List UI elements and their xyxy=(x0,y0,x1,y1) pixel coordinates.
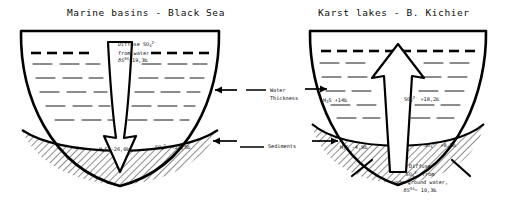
h2s-marine-symbol-tail: S xyxy=(104,146,107,152)
inflow-arrow-water-marine xyxy=(215,87,237,94)
legend-water-line2: Thickness xyxy=(270,94,298,102)
diffuse-marine-line1-prefix: Diffuse SO xyxy=(118,41,149,47)
legend-sediments: Sediments xyxy=(268,143,296,150)
diffuse-karst-line2-tail: from xyxy=(419,171,435,177)
water-ticks-marine-left xyxy=(33,64,114,120)
annotation-so4-sediment-karst: SO42- +8,5‰ xyxy=(424,141,456,151)
h2s-karst-sed-value: -4,9‰ xyxy=(352,144,368,150)
panel-title-karst: Karst lakes - B. Kichier xyxy=(318,7,470,18)
annotation-h2s-water-karst: H2S +14‰ xyxy=(323,97,347,106)
diffuse-karst-line1: Diffuse xyxy=(376,163,464,170)
annotation-so4-sediment-marine: SO42- +22,5‰ xyxy=(155,143,190,153)
annotation-diffuse-marine: Diffuse SO42- from water δS34=19,3‰ xyxy=(118,40,156,64)
water-ticks-karst-left xyxy=(320,63,380,118)
diffuse-marine-line2: from water xyxy=(118,50,156,57)
panel-title-marine: Marine basins - Black Sea xyxy=(67,7,225,18)
so4-karst-water-sup: 2- xyxy=(413,95,418,100)
panel-karst xyxy=(305,31,486,185)
legend-water-thickness: Water Thickness xyxy=(270,86,298,102)
so4-karst-water-value: +18,2‰ xyxy=(420,96,439,102)
h2s-karst-water-symbol-tail: S xyxy=(328,97,331,103)
h2s-karst-water-value: +14‰ xyxy=(335,97,348,103)
so4-marine-sup: 2- xyxy=(164,143,169,148)
annotation-h2s-sediment-marine: H2S -26,0‰ xyxy=(99,146,129,155)
diffuse-marine-line1-sup: 2- xyxy=(152,40,157,45)
diffuse-karst-value: = 10,3‰ xyxy=(415,187,437,193)
inflow-arrow-sediment-marine xyxy=(213,138,237,145)
annotation-diffuse-karst: Diffuse SO42- from underground water, δS… xyxy=(376,163,464,193)
so4-karst-sed-value: +8,5‰ xyxy=(440,142,456,148)
so4-marine-value: +22,5‰ xyxy=(171,144,190,150)
h2s-marine-value: -26,0‰ xyxy=(111,146,130,152)
h2s-karst-sed-symbol-tail: S xyxy=(345,144,348,150)
annotation-so4-water-karst: SO42- +18,2‰ xyxy=(404,95,439,105)
so4-karst-sed-sup: 2- xyxy=(433,141,438,146)
water-ticks-marine-right xyxy=(128,64,207,120)
diffuse-marine-value: =19,3‰ xyxy=(129,57,148,63)
legend-pointers xyxy=(240,90,266,147)
annotation-h2s-sediment-karst: H2S -4,9‰ xyxy=(340,144,367,153)
diagram-canvas: Marine basins - Black Sea Karst lakes - … xyxy=(0,0,512,214)
legend-water-line1: Water xyxy=(270,86,298,94)
diffuse-karst-line3: underground water, xyxy=(376,179,464,186)
